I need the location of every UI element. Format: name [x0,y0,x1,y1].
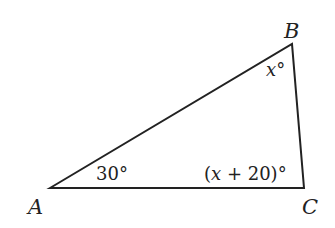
angle-b-degree: ° [276,59,285,80]
triangle-diagram: A B C 30° x° (x + 20)° [0,0,335,228]
vertex-label-a: A [26,195,43,219]
vertex-label-b: B [283,19,299,43]
angle-label-a: 30° [96,163,128,184]
vertex-label-c: C [302,195,318,219]
angle-b-variable: x [266,59,276,80]
angle-label-b: x° [266,59,285,80]
angle-c-expression: + 20)° [221,163,286,184]
angle-c-variable: x [211,163,221,184]
angle-label-c: (x + 20)° [204,163,287,184]
angle-c-open-paren: ( [204,163,211,184]
